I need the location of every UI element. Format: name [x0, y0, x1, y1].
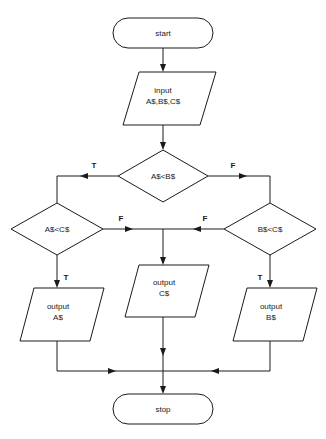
- node-decision-ab[interactable]: A$<B$: [118, 150, 208, 202]
- node-output-b[interactable]: output B$: [233, 288, 317, 341]
- arrowhead-down-icon: [160, 386, 166, 394]
- connector-ab-false-to-bc: [208, 173, 270, 203]
- node-stop[interactable]: stop: [113, 394, 213, 424]
- arrowhead-left-icon: [80, 173, 88, 179]
- connector-output-b-to-merge: [163, 341, 270, 374]
- node-decision-ac[interactable]: A$<C$: [11, 203, 103, 255]
- output-a-label-line1: output: [47, 302, 70, 311]
- output-b-label-line2: B$: [266, 313, 276, 322]
- output-c-label-line1: output: [153, 278, 176, 287]
- output-c-label-line2: C$: [159, 289, 170, 298]
- start-label: start: [155, 29, 171, 38]
- edge-label-bc-true: T: [258, 273, 263, 282]
- connector-ab-true-to-ac: [57, 173, 118, 203]
- arrowhead-right-icon: [108, 368, 116, 374]
- stop-label: stop: [155, 405, 171, 414]
- arrowhead-down-icon: [160, 257, 166, 265]
- node-output-a[interactable]: output A$: [20, 288, 104, 341]
- arrowhead-down-icon: [160, 348, 166, 356]
- node-output-c[interactable]: output C$: [125, 265, 209, 317]
- connector-start-to-input: [160, 48, 166, 72]
- input-label-line1: input: [154, 86, 172, 95]
- output-a-label-line2: A$: [53, 313, 63, 322]
- arrowhead-down-icon: [267, 280, 273, 288]
- arrowhead-down-icon: [160, 142, 166, 150]
- arrowhead-left-icon: [193, 226, 201, 232]
- flowchart-diagram: start input A$,B$,C$ A$<B$ A$<C$ B$<C$ o…: [0, 0, 326, 439]
- connector-ac-false-to-center: [103, 226, 163, 232]
- output-b-label-line1: output: [260, 302, 283, 311]
- arrowhead-down-icon: [160, 64, 166, 72]
- flowchart-canvas: start input A$,B$,C$ A$<B$ A$<C$ B$<C$ o…: [0, 0, 326, 439]
- arrowhead-left-icon: [211, 368, 219, 374]
- connector-ac-true-to-output-a: [54, 255, 60, 288]
- connector-output-c-to-stop: [160, 317, 166, 394]
- connector-bc-true-to-output-b: [267, 255, 273, 288]
- input-label-line2: A$,B$,C$: [146, 97, 181, 106]
- arrowhead-right-icon: [125, 226, 133, 232]
- node-input[interactable]: input A$,B$,C$: [123, 72, 216, 125]
- decision-ab-label: A$<B$: [151, 172, 176, 181]
- node-decision-bc[interactable]: B$<C$: [224, 203, 316, 255]
- decision-ac-label: A$<C$: [45, 225, 70, 234]
- edge-label-ac-false: F: [119, 214, 124, 223]
- connector-output-a-to-merge: [57, 341, 163, 374]
- node-start[interactable]: start: [113, 18, 213, 48]
- edge-label-ac-true: T: [64, 273, 69, 282]
- connector-input-to-decision-ab: [160, 125, 166, 150]
- arrowhead-right-icon: [239, 173, 247, 179]
- connector-center-to-output-c: [160, 229, 166, 265]
- connector-bc-false-to-center: [163, 226, 224, 232]
- edge-label-ab-true: T: [92, 161, 97, 170]
- decision-bc-label: B$<C$: [258, 225, 283, 234]
- edge-label-bc-false: F: [203, 214, 208, 223]
- edge-label-ab-false: F: [231, 161, 236, 170]
- arrowhead-down-icon: [54, 280, 60, 288]
